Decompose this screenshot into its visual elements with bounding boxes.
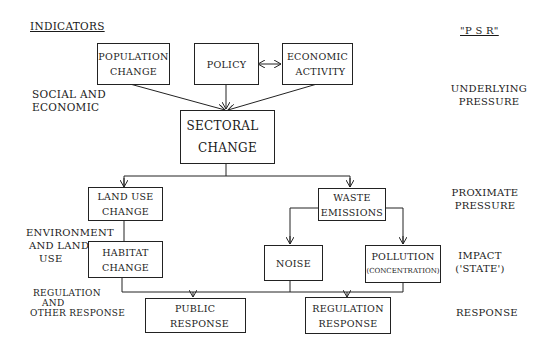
label-regulation-other: REGULATION AND OTHER RESPONSE (30, 288, 125, 318)
box-policy: POLICY (194, 43, 259, 85)
box-noise: NOISE (264, 245, 323, 281)
psr-heading: "P S R" (460, 24, 499, 37)
box-sectoral-change: SECTORALCHANGE (180, 110, 275, 164)
label-proximate-pressure: PROXIMATEPRESSURE (440, 186, 530, 212)
box-public-response: PUBLICRESPONSE (145, 298, 246, 333)
box-waste-emissions: WASTEEMISSIONS (318, 188, 386, 221)
box-pollution-concentration: POLLUTION(CONCENTRATION) (365, 245, 441, 283)
line-collector (122, 277, 403, 292)
label-underlying-pressure: UNDERLYINGPRESSURE (444, 82, 534, 108)
line-split (124, 176, 350, 187)
box-population-change: POPULATIONCHANGE (97, 43, 170, 85)
label-social-economic: SOCIAL ANDECONOMIC (32, 88, 106, 114)
line-waste-noise (290, 208, 318, 244)
line-waste-pollution (385, 208, 403, 244)
box-regulation-response: REGULATIONRESPONSE (305, 297, 391, 334)
box-economic-activity: ECONOMICACTIVITY (282, 43, 353, 85)
box-land-use-change: LAND USECHANGE (88, 187, 163, 221)
box-habitat-change: HABITATCHANGE (88, 241, 163, 278)
indicators-heading: INDICATORS (30, 20, 105, 33)
arrow-population-sectoral (130, 84, 225, 110)
arrow-economic-sectoral (228, 84, 317, 110)
label-response: RESPONSE (456, 306, 518, 319)
label-impact-state: IMPACT('STATE') (440, 249, 520, 275)
